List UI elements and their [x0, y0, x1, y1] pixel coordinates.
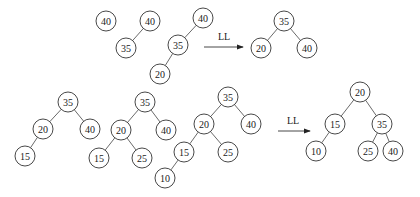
tree-after-ll-rotation-2: 201535102540 — [306, 82, 403, 161]
node-value: 40 — [302, 43, 312, 54]
tree-edge — [341, 100, 354, 116]
node-value: 35 — [279, 16, 289, 27]
tree-insert-25: 3520401525 — [89, 92, 176, 168]
tree-edge — [151, 110, 160, 122]
tree-node-15: 15 — [89, 148, 109, 168]
tree-node-40: 40 — [140, 11, 160, 31]
tree-node-20: 20 — [150, 64, 170, 84]
node-value: 35 — [223, 92, 233, 103]
tree-node-10: 10 — [155, 168, 175, 188]
tree-node-15: 15 — [325, 114, 345, 134]
tree-node-20: 20 — [350, 82, 370, 102]
tree-edge — [128, 110, 139, 123]
node-value: 20 — [116, 125, 126, 136]
node-value: 35 — [173, 40, 183, 51]
node-value: 25 — [137, 153, 147, 164]
node-value: 40 — [161, 125, 171, 136]
tree-edge — [366, 100, 377, 116]
arrow-label: LL — [218, 31, 230, 42]
node-value: 10 — [160, 173, 170, 184]
tree-node-40: 40 — [193, 8, 213, 28]
tree-node-20: 20 — [111, 120, 131, 140]
node-value: 35 — [63, 97, 73, 108]
tree-edge — [50, 109, 61, 121]
node-value: 10 — [311, 146, 321, 157]
tree-edge — [211, 132, 222, 145]
tree-edge — [211, 104, 222, 116]
tree-edge — [105, 138, 115, 150]
tree-node-40: 40 — [156, 120, 176, 140]
tree-edge — [322, 132, 329, 143]
tree-node-35: 35 — [116, 38, 136, 58]
tree-edge — [386, 133, 389, 141]
node-value: 40 — [388, 146, 398, 157]
tree-edge — [171, 160, 178, 170]
ll-arrow-top: LL — [204, 31, 243, 47]
tree-node-25: 25 — [358, 141, 378, 161]
node-value: 40 — [101, 16, 111, 27]
node-value: 15 — [94, 153, 104, 164]
tree-edge — [31, 137, 38, 147]
node-value: 20 — [355, 87, 365, 98]
tree-node-35: 35 — [218, 87, 238, 107]
tree-insert-15: 35204015 — [15, 92, 100, 166]
node-value: 35 — [377, 119, 387, 130]
tree-node-35: 35 — [372, 114, 392, 134]
tree-node-20: 20 — [194, 114, 214, 134]
tree-edge — [185, 25, 196, 37]
node-value: 20 — [199, 119, 209, 130]
node-value: 15 — [330, 119, 340, 130]
ll-arrow-bottom: LL — [278, 115, 310, 131]
tree-edge — [127, 138, 136, 150]
tree-node-20: 20 — [33, 119, 53, 139]
node-value: 15 — [20, 151, 30, 162]
tree-edge — [133, 28, 144, 40]
tree-node-40: 40 — [241, 114, 261, 134]
node-value: 20 — [155, 69, 165, 80]
tree-node-25: 25 — [132, 148, 152, 168]
tree-node-35: 35 — [274, 11, 294, 31]
tree-insert-40: 40 — [96, 11, 116, 31]
tree-node-35: 35 — [58, 92, 78, 112]
node-value: 15 — [179, 147, 189, 158]
tree-edge — [267, 29, 277, 41]
tree-after-ll-rotation-1: 352040 — [251, 11, 317, 58]
tree-node-40: 40 — [80, 119, 100, 139]
tree-edge — [234, 105, 244, 117]
node-value: 40 — [145, 16, 155, 27]
tree-edge — [373, 133, 378, 142]
tree-node-15: 15 — [174, 142, 194, 162]
arrow-label: LL — [287, 115, 299, 126]
node-value: 35 — [140, 97, 150, 108]
tree-edge — [190, 132, 198, 144]
tree-node-40: 40 — [297, 38, 317, 58]
node-value: 25 — [363, 146, 373, 157]
tree-insert-35-edges — [133, 28, 144, 40]
tree-edge — [290, 29, 300, 41]
node-value: 40 — [85, 124, 95, 135]
node-value: 20 — [256, 43, 266, 54]
tree-edge — [74, 110, 83, 121]
tree-edge — [165, 53, 172, 65]
avl-diagram: 4040354035203520403520401535204015253520… — [0, 0, 420, 197]
tree-node-20: 20 — [251, 38, 271, 58]
tree-node-35: 35 — [168, 35, 188, 55]
node-value: 20 — [38, 124, 48, 135]
node-value: 35 — [121, 43, 131, 54]
node-value: 40 — [246, 119, 256, 130]
tree-node-35: 35 — [135, 92, 155, 112]
tree-node-40: 40 — [96, 11, 116, 31]
tree-node-25: 25 — [218, 142, 238, 162]
tree-node-15: 15 — [15, 146, 35, 166]
tree-node-40: 40 — [383, 141, 403, 161]
tree-node-10: 10 — [306, 141, 326, 161]
node-value: 40 — [198, 13, 208, 24]
node-value: 25 — [223, 147, 233, 158]
